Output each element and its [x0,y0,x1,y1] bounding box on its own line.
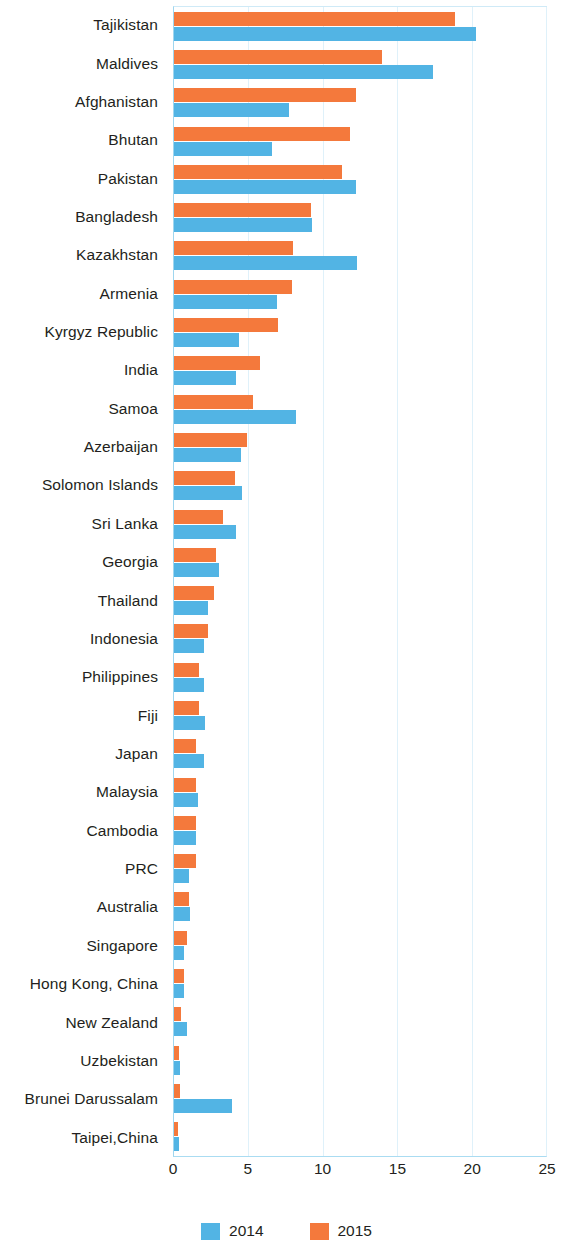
bar-2015 [174,969,184,983]
bar-row [174,467,546,505]
horizontal-bar-chart: TajikistanMaldivesAfghanistanBhutanPakis… [0,0,573,1256]
bar-2014 [174,65,433,79]
bar-2015 [174,624,208,638]
bar-2014 [174,180,356,194]
bar-row [174,428,546,466]
x-tick-label: 5 [243,1160,252,1178]
bar-2014 [174,869,189,883]
bar-2014 [174,142,272,156]
bar-2015 [174,127,350,141]
bar-2014 [174,218,312,232]
legend-item[interactable]: 2015 [310,1222,372,1240]
category-label: New Zealand [0,1003,166,1041]
category-label: Maldives [0,44,166,82]
category-label: PRC [0,850,166,888]
bar-2015 [174,778,196,792]
x-tick-label: 15 [389,1160,406,1178]
bar-row [174,811,546,849]
bar-2015 [174,1084,180,1098]
bar-row [174,160,546,198]
bar-2014 [174,371,236,385]
bar-2015 [174,510,223,524]
legend-label: 2014 [229,1222,263,1240]
bar-2015 [174,12,455,26]
bar-2015 [174,816,196,830]
category-label: Georgia [0,543,166,581]
bar-row [174,275,546,313]
bar-row [174,352,546,390]
bar-2014 [174,907,190,921]
bar-row [174,1003,546,1041]
x-tick-label: 0 [169,1160,178,1178]
bar-2015 [174,892,189,906]
bar-2015 [174,586,214,600]
category-label: Brunei Darussalam [0,1080,166,1118]
x-tick-label: 10 [314,1160,331,1178]
category-label: Kazakhstan [0,236,166,274]
category-label: Solomon Islands [0,466,166,504]
bar-2014 [174,256,357,270]
bar-row [174,390,546,428]
bar-2015 [174,739,196,753]
bar-row [174,964,546,1002]
bar-2014 [174,295,277,309]
bar-2015 [174,88,356,102]
bar-2014 [174,525,236,539]
bar-2015 [174,548,216,562]
bar-2015 [174,433,247,447]
x-tick-label: 20 [464,1160,481,1178]
bar-2015 [174,280,292,294]
legend-label: 2015 [338,1222,372,1240]
bar-row [174,313,546,351]
category-label: Afghanistan [0,83,166,121]
bar-2015 [174,50,382,64]
category-label: Bangladesh [0,198,166,236]
bar-2014 [174,639,204,653]
category-label: Indonesia [0,620,166,658]
bar-2015 [174,931,187,945]
bar-rows [174,7,546,1156]
category-label: Uzbekistan [0,1042,166,1080]
bar-2014 [174,678,204,692]
category-label: Hong Kong, China [0,965,166,1003]
bar-2014 [174,716,205,730]
legend-item[interactable]: 2014 [201,1222,263,1240]
category-label: Samoa [0,390,166,428]
category-label: Malaysia [0,773,166,811]
category-label: Armenia [0,275,166,313]
bar-row [174,198,546,236]
bar-row [174,735,546,773]
category-axis-labels: TajikistanMaldivesAfghanistanBhutanPakis… [0,6,166,1157]
bar-2015 [174,241,293,255]
bar-row [174,505,546,543]
category-label: Pakistan [0,159,166,197]
bar-row [174,1079,546,1117]
bar-2014 [174,1099,232,1113]
bar-2014 [174,448,241,462]
plot-area [173,6,547,1157]
category-label: Azerbaijan [0,428,166,466]
chart-legend: 20142015 [0,1222,573,1240]
gridline [546,7,547,1156]
legend-swatch-icon [201,1223,220,1240]
bar-2014 [174,103,289,117]
bar-2015 [174,356,260,370]
bar-2014 [174,1022,187,1036]
bar-row [174,773,546,811]
bar-2014 [174,946,184,960]
category-label: Australia [0,888,166,926]
bar-2014 [174,410,296,424]
bar-2014 [174,1061,180,1075]
bar-2014 [174,984,184,998]
category-label: Japan [0,735,166,773]
bar-row [174,237,546,275]
bar-2015 [174,203,311,217]
category-label: India [0,351,166,389]
bar-2014 [174,333,239,347]
bar-2014 [174,486,242,500]
category-label: Fiji [0,696,166,734]
bar-2014 [174,793,198,807]
category-label: Taipei,China [0,1118,166,1156]
legend-swatch-icon [310,1223,329,1240]
bar-2015 [174,165,342,179]
